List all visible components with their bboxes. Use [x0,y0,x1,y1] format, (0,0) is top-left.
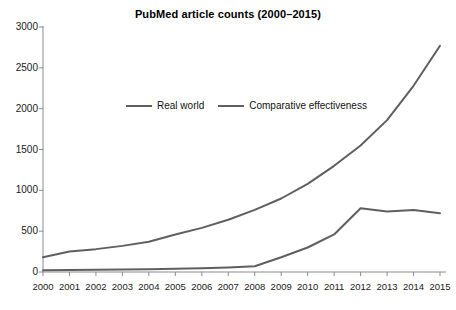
legend-line-swatch [218,105,244,107]
legend-label: Comparative effectiveness [249,100,367,111]
x-axis-tick-labels: 2000200120022003200420052006200720082009… [0,0,456,310]
chart-legend: Real worldComparative effectiveness [126,100,367,111]
x-tick-label: 2015 [423,282,456,292]
chart-container: PubMed article counts (2000–2015) 050010… [0,0,456,310]
legend-label: Real world [157,100,204,111]
legend-item[interactable]: Real world [126,100,204,111]
legend-line-swatch [126,105,152,107]
legend-item[interactable]: Comparative effectiveness [218,100,367,111]
